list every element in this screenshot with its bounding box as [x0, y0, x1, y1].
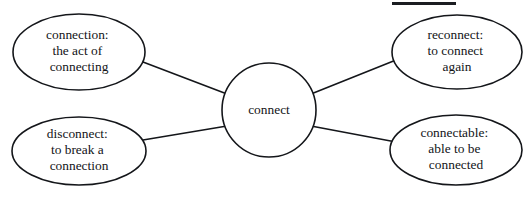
node-reconnect-line-2: to connect — [428, 43, 484, 58]
node-connect-label: connect — [248, 102, 290, 117]
node-disconnect-label: disconnect: to break a connection — [47, 126, 111, 173]
node-connection[interactable]: connection: the act of connecting — [13, 14, 145, 90]
node-connection-line-1: connection: — [46, 27, 108, 42]
node-connectable-line-1: connectable: — [420, 125, 488, 140]
node-reconnect[interactable]: reconnect: to connect again — [392, 15, 522, 89]
edge-connect-disconnect — [143, 126, 227, 140]
diagram-canvas: connection: the act of connecting discon… — [0, 0, 532, 200]
edge-connect-reconnect — [311, 60, 396, 94]
node-connect-center[interactable]: connect — [222, 63, 316, 157]
node-reconnect-line-1: reconnect: — [427, 27, 483, 42]
node-reconnect-line-3: again — [443, 59, 472, 74]
node-disconnect-line-1: disconnect: — [47, 126, 108, 141]
node-disconnect-line-3: connection — [50, 158, 109, 173]
node-connectable-line-2: able to be — [428, 141, 480, 156]
node-connectable-label: connectable: able to be connected — [420, 125, 491, 172]
node-connectable-line-3: connected — [429, 157, 484, 172]
node-disconnect-line-2: to break a — [51, 142, 104, 157]
word-web-diagram: connection: the act of connecting discon… — [0, 0, 532, 200]
node-disconnect[interactable]: disconnect: to break a connection — [12, 117, 146, 185]
node-connection-label: connection: the act of connecting — [46, 27, 112, 74]
node-connection-line-2: the act of — [52, 43, 102, 58]
node-connectable[interactable]: connectable: able to be connected — [390, 115, 522, 185]
edge-connect-connectable — [311, 126, 396, 142]
node-connection-line-3: connecting — [50, 59, 109, 74]
edge-connect-connection — [143, 62, 227, 94]
